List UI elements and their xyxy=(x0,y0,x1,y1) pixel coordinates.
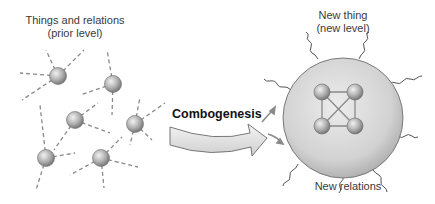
new-relations-label: New relations xyxy=(303,180,393,193)
new-thing-label: New thing (new level) xyxy=(308,9,378,35)
thing-sphere xyxy=(38,150,55,167)
new-thing-title: New thing xyxy=(308,9,378,22)
thing-sphere xyxy=(105,76,122,93)
new-thing-subtitle: (new level) xyxy=(308,22,378,35)
inner-sphere xyxy=(347,84,363,100)
new-thing-sphere xyxy=(283,58,403,178)
inner-sphere xyxy=(347,118,363,134)
prior-level-title: Things and relations xyxy=(20,14,130,27)
thing-sphere xyxy=(93,150,110,167)
thing-sphere xyxy=(50,68,67,85)
inner-sphere xyxy=(314,84,330,100)
thing-sphere xyxy=(127,116,144,133)
inner-sphere xyxy=(314,118,330,134)
thing-sphere xyxy=(67,112,84,129)
prior-level-subtitle: (prior level) xyxy=(20,27,130,40)
prior-things xyxy=(38,68,144,167)
prior-level-label: Things and relations (prior level) xyxy=(20,14,130,40)
prior-relations xyxy=(20,50,165,190)
combogenesis-label: Combogenesis xyxy=(172,108,262,121)
combogenesis-arrow xyxy=(170,124,267,156)
